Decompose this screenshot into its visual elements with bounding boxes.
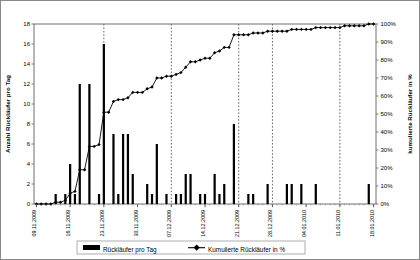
y-axis-left-tick-label: 10 [23, 101, 30, 107]
x-axis-tick-label: 11.01.2010 [335, 210, 341, 237]
y-axis-right-tick-label: 40% [381, 129, 394, 135]
y-axis-right-tick-label: 0% [381, 201, 390, 207]
y-axis-right-tick-label: 90% [381, 39, 394, 45]
y-axis-right-tick-label: 80% [381, 57, 394, 63]
y-axis-right-tick-label: 50% [381, 111, 394, 117]
x-axis-tick-label: 18.01.2010 [369, 210, 375, 237]
x-axis-tick-label: 04.01.2010 [301, 210, 307, 237]
y-axis-right-ticks: 0%10%20%30%40%50%60%70%80%90%100% [376, 21, 397, 207]
x-axis-tick-label: 30.11.2009 [133, 210, 139, 237]
x-axis-tick-label: 21.12.2009 [234, 210, 240, 237]
y-axis-left-tick-label: 4 [27, 161, 31, 167]
legend-label-bars: Rückläufer pro Tag [103, 246, 157, 254]
y-axis-right-tick-label: 30% [381, 147, 394, 153]
chart-legend: Rückläufer pro Tag Kumulierte Rückläufer… [77, 241, 305, 254]
plot-area-background [34, 24, 376, 204]
y-axis-left-tick-label: 6 [27, 141, 31, 147]
legend-label-line: Kumulierte Rückläufer in % [208, 246, 285, 253]
y-axis-left-title: Anzahl Rückläufer pro Tag [4, 75, 11, 153]
y-axis-left-tick-label: 14 [23, 61, 30, 67]
x-axis-tick-label: 14.12.2009 [200, 210, 206, 237]
y-axis-right-tick-label: 20% [381, 165, 394, 171]
y-axis-right-title: kumulierte Rückläufer in % [406, 74, 413, 154]
y-axis-left-tick-label: 18 [23, 21, 30, 27]
y-axis-left-tick-label: 2 [27, 181, 31, 187]
y-axis-left-tick-label: 16 [23, 41, 30, 47]
x-axis-tick-label: 28.12.2009 [267, 210, 273, 237]
y-axis-left-tick-label: 8 [27, 121, 31, 127]
x-axis-ticks: 09.11.200916.11.200923.11.200930.11.2009… [31, 204, 374, 237]
chart-frame: 024681012141618 0%10%20%30%40%50%60%70%8… [0, 0, 420, 260]
legend-bar-swatch [83, 245, 100, 250]
y-axis-right-tick-label: 10% [381, 183, 394, 189]
y-axis-right-tick-label: 100% [381, 21, 397, 27]
x-axis-tick-label: 23.11.2009 [99, 210, 105, 237]
x-axis-tick-label: 09.11.2009 [31, 210, 37, 237]
y-axis-right-tick-label: 60% [381, 93, 394, 99]
returns-pareto-chart: 024681012141618 0%10%20%30%40%50%60%70%8… [1, 1, 420, 260]
x-axis-tick-label: 07.12.2009 [166, 210, 172, 237]
y-axis-left-tick-label: 12 [23, 81, 30, 87]
x-axis-tick-label: 16.11.2009 [65, 210, 71, 237]
y-axis-left-ticks: 024681012141618 [23, 21, 34, 207]
y-axis-left-tick-label: 0 [27, 201, 31, 207]
y-axis-right-tick-label: 70% [381, 75, 394, 81]
